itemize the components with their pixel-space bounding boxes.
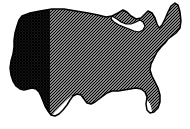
us-map-svg [0,0,190,129]
map-figure [0,0,190,129]
